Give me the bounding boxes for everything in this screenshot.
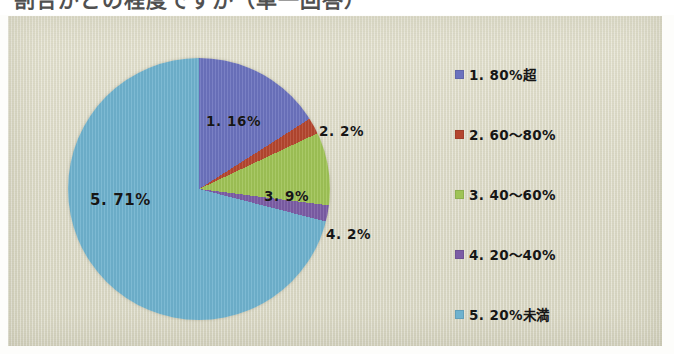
slice-label-1: 1. 16% [206,113,261,129]
page-title: 割合がどの程度ですか（単一回答） [14,0,366,13]
legend-swatch-icon-1 [455,70,464,79]
slice-label-5: 5. 71% [90,191,151,209]
legend-item-5: 5. 20%未満 [455,304,655,324]
cropped-title-strip: 割合がどの程度ですか（単一回答） [0,0,674,15]
slice-label-2: 2. 2% [319,123,364,139]
slice-label-4: 4. 2% [326,226,371,242]
legend-item-3: 3. 40〜60% [455,184,655,204]
legend-swatch-icon-3 [455,190,464,199]
scanned-page: 割合がどの程度ですか（単一回答） 1. 16% 2. 2% 3. 9% 4. 2… [0,0,674,354]
legend-item-4: 4. 20〜40% [455,244,655,264]
legend-label-4: 4. 20〜40% [469,244,556,264]
legend-item-1: 1. 80%超 [455,64,655,84]
legend-label-2: 2. 60〜80% [469,124,556,144]
legend-swatch-icon-5 [455,310,464,319]
legend-label-1: 1. 80%超 [469,64,536,84]
legend-label-5: 5. 20%未満 [469,304,550,324]
chart-panel: 1. 16% 2. 2% 3. 9% 4. 2% 5. 71% 1. 80%超 … [8,16,662,346]
legend-label-3: 3. 40〜60% [469,184,556,204]
slice-label-3: 3. 9% [264,188,309,204]
chart-legend: 1. 80%超 2. 60〜80% 3. 40〜60% 4. 20〜40% 5.… [455,64,655,354]
legend-swatch-icon-2 [455,130,464,139]
legend-swatch-icon-4 [455,250,464,259]
legend-item-2: 2. 60〜80% [455,124,655,144]
